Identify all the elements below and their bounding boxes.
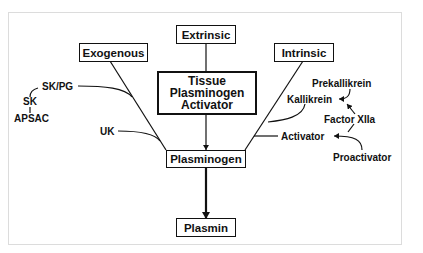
activator-label: Activator (281, 131, 324, 142)
prekallikrein-arrow (339, 89, 350, 99)
uk-label: UK (100, 126, 114, 137)
intrinsic-box: Intrinsic (274, 43, 334, 62)
factor-xiia-label: Factor XIIa (324, 114, 375, 125)
uk-curve (118, 131, 160, 141)
plasminogen-label: Plasminogen (170, 153, 242, 165)
extrinsic-label: Extrinsic (182, 29, 231, 41)
exogenous-label: Exogenous (83, 47, 145, 59)
plasminogen-box: Plasminogen (166, 150, 246, 168)
skpg-curve (78, 86, 132, 97)
proactivator-arrow (334, 136, 362, 150)
kallikrein-label: Kallikrein (287, 94, 332, 105)
prekallikrein-label: Prekallikrein (312, 78, 371, 89)
plasmin-box: Plasmin (176, 218, 236, 237)
exogenous-box: Exogenous (79, 43, 148, 62)
sk-label: SK (23, 96, 37, 107)
extrinsic-box: Extrinsic (176, 25, 236, 44)
intrinsic-label: Intrinsic (282, 47, 327, 59)
tpa-label-line3: Activator (181, 99, 233, 111)
apsac-label: APSAC (14, 113, 49, 124)
proactivator-label: Proactivator (333, 152, 391, 163)
tissue-plasminogen-activator-box: Tissue Plasminogen Activator (157, 71, 257, 115)
factor-xiia-arrow-down (348, 124, 354, 132)
factor-xiia-arrow-up (347, 104, 355, 114)
skpg-label: SK/PG (42, 81, 73, 92)
plasmin-label: Plasmin (184, 222, 228, 234)
